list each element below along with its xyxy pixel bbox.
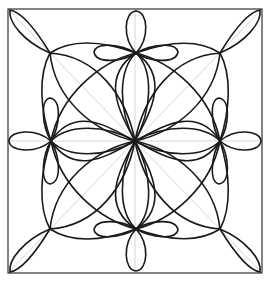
flower-top: [94, 11, 178, 60]
flower-bottom: [94, 222, 178, 271]
rosette-diagram: [0, 0, 272, 281]
